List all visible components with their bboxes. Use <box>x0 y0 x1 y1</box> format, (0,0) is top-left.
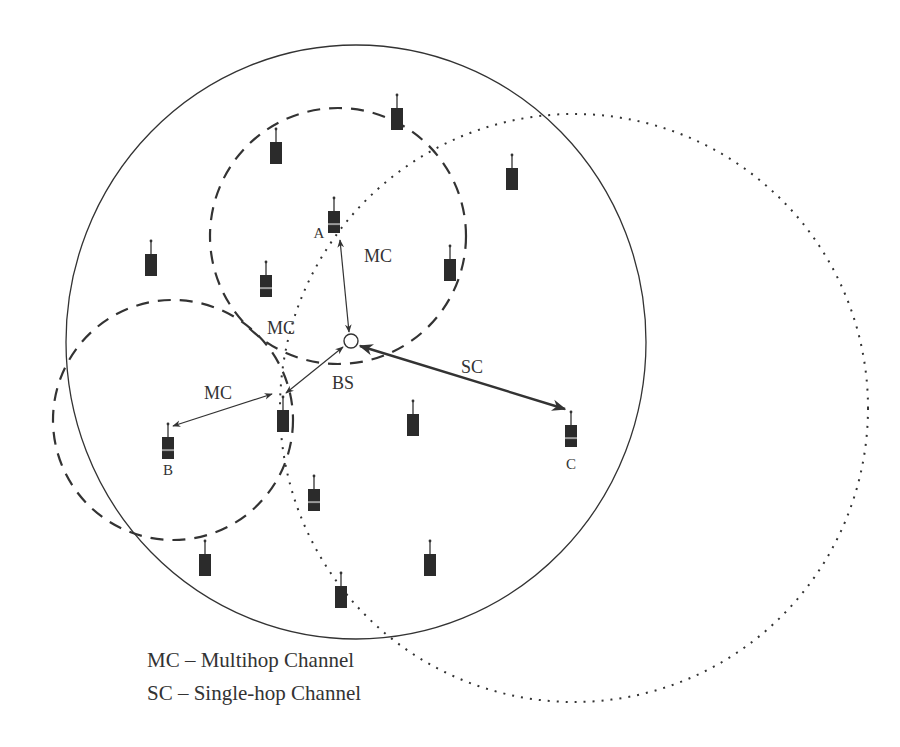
phone-stripe <box>328 223 340 225</box>
phone-icon <box>328 211 340 233</box>
device-label-B: B <box>163 462 173 478</box>
network-diagram: MCMCMCSC ABC BS <box>0 0 900 747</box>
phone-icon <box>199 554 211 576</box>
link-label-a-bs: MC <box>364 246 392 266</box>
phone-icon <box>145 254 157 276</box>
phone-icon <box>308 489 320 511</box>
antenna-tip-icon <box>449 245 452 248</box>
mobile-device <box>506 154 518 190</box>
phone-stripe <box>308 501 320 503</box>
mobile-device <box>424 540 436 576</box>
link-a-bs-arrow <box>340 240 349 332</box>
antenna-tip-icon <box>150 240 153 243</box>
phone-icon <box>162 437 174 459</box>
link-label-b-relay: MC <box>204 383 232 403</box>
base-station-icon <box>344 334 358 348</box>
mobile-device <box>145 240 157 276</box>
phone-icon <box>444 259 456 281</box>
legend-mc: MC – Multihop Channel <box>147 648 354 673</box>
phone-stripe <box>565 437 577 439</box>
mobile-device <box>391 94 403 130</box>
antenna-tip-icon <box>340 572 343 575</box>
mobile-device <box>270 128 282 164</box>
device-B: B <box>162 423 174 478</box>
link-label-relay-bs: MC <box>267 318 295 338</box>
device-label-A: A <box>314 225 325 241</box>
link-bs-c-arrow <box>360 346 565 409</box>
phone-icon <box>391 108 403 130</box>
antenna-tip-icon <box>570 411 573 414</box>
phone-icon <box>277 410 289 432</box>
mobile-device <box>260 261 272 297</box>
channel-links: MCMCMCSC <box>173 240 565 426</box>
legend-sc: SC – Single-hop Channel <box>147 681 361 706</box>
phone-stripe <box>162 449 174 451</box>
phone-icon <box>565 425 577 447</box>
phone-icon <box>260 275 272 297</box>
antenna-tip-icon <box>412 400 415 403</box>
adjacent-range-circle <box>280 114 868 702</box>
base-station-label: BS <box>332 373 354 393</box>
mobile-devices: ABC <box>145 94 577 608</box>
antenna-tip-icon <box>275 128 278 131</box>
antenna-tip-icon <box>313 475 316 478</box>
antenna-tip-icon <box>282 396 285 399</box>
phone-icon <box>506 168 518 190</box>
mobile-device <box>335 572 347 608</box>
phone-icon <box>335 586 347 608</box>
device-C: C <box>565 411 577 472</box>
phone-stripe <box>260 287 272 289</box>
antenna-tip-icon <box>396 94 399 97</box>
device-label-C: C <box>566 456 576 472</box>
phone-icon <box>424 554 436 576</box>
phone-icon <box>270 142 282 164</box>
antenna-tip-icon <box>167 423 170 426</box>
link-label-bs-c: SC <box>461 357 483 377</box>
mobile-device <box>407 400 419 436</box>
antenna-tip-icon <box>333 197 336 200</box>
mobile-device <box>308 475 320 511</box>
antenna-tip-icon <box>429 540 432 543</box>
phone-icon <box>407 414 419 436</box>
antenna-tip-icon <box>204 540 207 543</box>
mobile-device <box>277 396 289 432</box>
mobile-device <box>199 540 211 576</box>
mobile-device <box>444 245 456 281</box>
antenna-tip-icon <box>265 261 268 264</box>
antenna-tip-icon <box>511 154 514 157</box>
